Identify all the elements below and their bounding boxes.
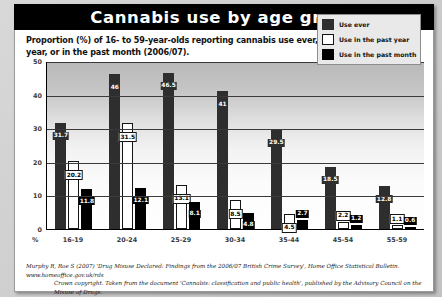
legend-item: Use ever: [322, 19, 416, 30]
bar: 4.8: [243, 213, 254, 229]
bar-value-label: 4.8: [242, 221, 254, 229]
legend-swatch: [322, 49, 334, 60]
x-axis-labels: 16-1920-2425-2930-3435-4445-5455-59: [46, 232, 424, 246]
grid-line: [47, 96, 424, 97]
x-tick-label: 16-19: [46, 232, 100, 246]
bar-value-label: 8.1: [188, 210, 200, 218]
bar: 11.8: [81, 189, 92, 229]
bar-value-label: 20.2: [65, 170, 84, 180]
legend-item: Use in the past year: [322, 34, 416, 45]
bar: 18.5: [325, 167, 336, 229]
bar: 2.2: [338, 222, 349, 229]
bar: 4.5: [284, 214, 295, 229]
bar-value-label: 46: [110, 83, 120, 91]
bar: 29.5: [271, 130, 282, 229]
y-tick-label: 0: [38, 226, 42, 234]
chart-plot-area: 01020304050 31.720.211.84631.512.146.513…: [26, 62, 424, 246]
bar-value-label: 12.1: [133, 196, 150, 204]
bar-group: 46.513.18.1: [155, 62, 209, 229]
y-axis-labels: 01020304050: [26, 62, 44, 230]
legend-label: Use in the past month: [339, 51, 416, 58]
bar-value-label: 41: [217, 100, 227, 108]
legend-swatch: [322, 19, 334, 30]
bar-value-label: 46.5: [160, 82, 177, 90]
bar: 1.1: [392, 225, 403, 229]
bar: 1.2: [351, 225, 362, 229]
bar-group: 18.52.21.2: [316, 62, 370, 229]
legend-item: Use in the past month: [322, 49, 416, 60]
chart-legend: Use everUse in the past yearUse in the p…: [317, 14, 421, 65]
x-axis-percent-symbol: %: [32, 236, 38, 244]
legend-label: Use ever: [339, 21, 370, 28]
x-tick-label: 25-29: [154, 232, 208, 246]
bar-value-label: 2.7: [296, 210, 308, 218]
plot-canvas: 31.720.211.84631.512.146.513.18.1418.54.…: [46, 62, 424, 230]
bar: 8.5: [230, 200, 241, 229]
grid-line: [47, 129, 424, 130]
bar-value-label: 29.5: [268, 139, 285, 147]
bar-value-label: 31.5: [119, 132, 138, 142]
footer-divider: [22, 258, 428, 259]
bar-value-label: 8.5: [228, 209, 242, 219]
bar: 13.1: [176, 185, 187, 229]
x-tick-label: 20-24: [100, 232, 154, 246]
x-tick-label: 30-34: [208, 232, 262, 246]
bar-value-label: 0.6: [404, 217, 416, 225]
source-line-2: Crown copyright. Taken from the document…: [26, 279, 426, 296]
bar: 0.6: [405, 227, 416, 229]
y-tick-label: 10: [33, 192, 42, 200]
bar-value-label: 18.5: [322, 176, 339, 184]
bar: 46: [109, 74, 120, 229]
y-tick-label: 30: [33, 125, 42, 133]
x-tick-label: 45-54: [316, 232, 370, 246]
grid-line: [47, 163, 424, 164]
bar-value-label: 2.2: [336, 211, 350, 221]
x-tick-label: 35-44: [262, 232, 316, 246]
bar: 20.2: [68, 161, 79, 229]
bar-groups: 31.720.211.84631.512.146.513.18.1418.54.…: [47, 62, 424, 229]
bar-value-label: 31.7: [53, 132, 70, 140]
grid-line: [47, 196, 424, 197]
bar: 2.7: [297, 220, 308, 229]
bar-value-label: 1.2: [350, 215, 362, 223]
figure-root: Cannabis use by age group Proportion (%)…: [0, 0, 442, 297]
bar-group: 418.54.8: [209, 62, 263, 229]
bar: 12.1: [135, 188, 146, 229]
y-tick-label: 40: [33, 92, 42, 100]
bar-group: 12.81.10.6: [370, 62, 424, 229]
bar-group: 31.720.211.8: [47, 62, 101, 229]
legend-swatch: [322, 34, 334, 45]
bar: 8.1: [189, 202, 200, 229]
bar: 31.5: [122, 123, 133, 229]
source-footnote: Murphy R, Roe S (2007) 'Drug Misuse Decl…: [26, 262, 426, 296]
bar: 41: [217, 91, 228, 229]
bar-value-label: 1.1: [390, 214, 404, 224]
y-tick-label: 50: [33, 58, 42, 66]
bar-value-label: 11.8: [79, 197, 96, 205]
legend-label: Use in the past year: [339, 36, 409, 43]
x-tick-label: 55-59: [370, 232, 424, 246]
bar-group: 4631.512.1: [101, 62, 155, 229]
source-line-1: Murphy R, Roe S (2007) 'Drug Misuse Decl…: [26, 262, 426, 279]
bar: 12.8: [379, 186, 390, 229]
y-tick-label: 20: [33, 159, 42, 167]
bar-group: 29.54.52.7: [262, 62, 316, 229]
